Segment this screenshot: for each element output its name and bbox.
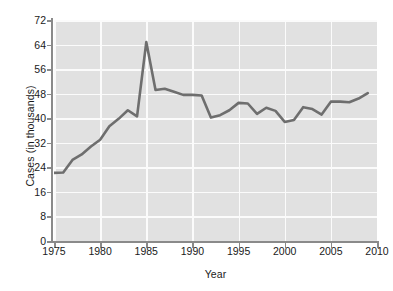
x-tick-label-1985: 1985 [121,245,171,257]
y-tick-mark [47,69,52,71]
x-axis-title: Year [54,268,377,280]
y-tick-mark [47,192,52,194]
data-series-line [54,20,377,241]
y-tick-mark [47,167,52,169]
x-tick-label-text: 1995 [214,245,264,257]
y-tick-label-text: 64 [0,40,46,50]
y-tick-label-72: 72 [0,15,46,25]
y-tick-mark [47,20,52,22]
y-axis-title: Cases (in thousands) [24,46,36,226]
y-tick-label-text: 72 [0,15,46,25]
y-tick-label-8: 8 [0,211,46,221]
y-tick-label-text: 16 [0,187,46,197]
y-tick-label-text: 24 [0,162,46,172]
y-tick-label-40: 40 [0,113,46,123]
x-tick-label-2005: 2005 [306,245,356,257]
y-tick-label-16: 16 [0,187,46,197]
y-tick-label-text: 8 [0,211,46,221]
x-tick-label-text: 1980 [75,245,125,257]
y-tick-mark [47,45,52,47]
line-chart: 72 64 56 48 40 32 24 16 8 0 1975 1980 19… [0,0,393,291]
y-tick-mark [47,241,52,243]
y-tick-label-56: 56 [0,64,46,74]
y-tick-label-text: 48 [0,89,46,99]
x-tick-label-1980: 1980 [75,245,125,257]
y-tick-label-32: 32 [0,138,46,148]
y-tick-label-64: 64 [0,40,46,50]
x-tick-label-text: 2000 [260,245,310,257]
y-tick-label-48: 48 [0,89,46,99]
y-tick-label-text: 40 [0,113,46,123]
y-tick-label-text: 32 [0,138,46,148]
x-tick-label-1995: 1995 [214,245,264,257]
y-tick-mark [47,118,52,120]
y-tick-mark [47,216,52,218]
x-tick-label-2000: 2000 [260,245,310,257]
x-tick-label-text: 1975 [29,245,79,257]
x-tick-label-1990: 1990 [167,245,217,257]
x-tick-label-text: 1985 [121,245,171,257]
y-tick-mark [47,94,52,96]
x-tick-label-text: 2010 [352,245,393,257]
x-tick-label-text: 2005 [306,245,356,257]
y-tick-label-text: 56 [0,64,46,74]
y-tick-label-24: 24 [0,162,46,172]
y-tick-mark [47,143,52,145]
plot-area [54,20,377,241]
x-tick-label-2010: 2010 [352,245,393,257]
x-tick-label-text: 1990 [167,245,217,257]
x-tick-label-1975: 1975 [29,245,79,257]
y-axis-line [51,18,53,243]
